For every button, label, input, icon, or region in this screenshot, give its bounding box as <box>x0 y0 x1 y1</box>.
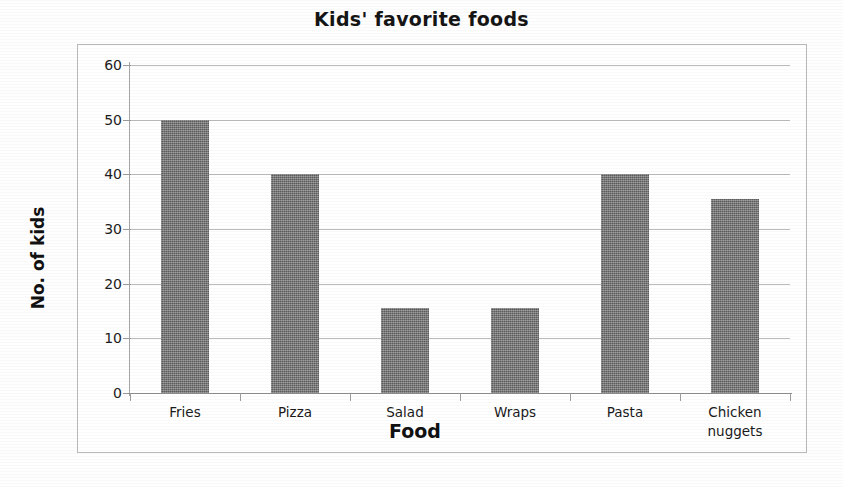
x-tick-label: Pasta <box>570 403 680 422</box>
x-tick-mark <box>240 393 241 401</box>
x-tick-mark <box>680 393 681 401</box>
x-tick-label: Chickennuggets <box>680 403 790 441</box>
x-tick-mark <box>570 393 571 401</box>
x-tick-label-line: Pasta <box>570 403 680 422</box>
x-tick-mark <box>460 393 461 401</box>
x-tick-mark <box>350 393 351 401</box>
x-tick-label-line: nuggets <box>680 422 790 441</box>
x-tick-mark <box>130 393 131 401</box>
x-axis-title: Food <box>330 420 500 442</box>
x-tick-mark <box>790 393 791 401</box>
x-tick-label: Fries <box>130 403 240 422</box>
x-tick-label-line: Chicken <box>680 403 790 422</box>
x-tick-label-line: Fries <box>130 403 240 422</box>
chart-figure: Kids' favorite foods No. of kids 0102030… <box>0 0 843 487</box>
